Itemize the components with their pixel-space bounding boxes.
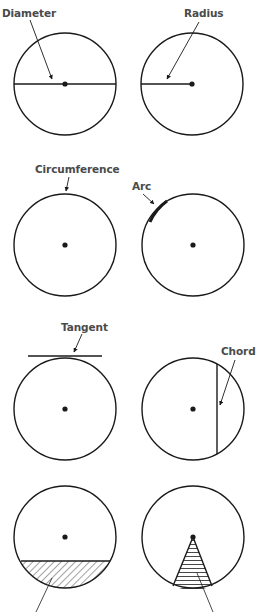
center-dot — [189, 81, 194, 86]
diameter-label: Diameter — [2, 7, 56, 19]
diameter-pointer — [30, 20, 52, 79]
tangent-label: Tangent — [61, 321, 108, 333]
arc-highlight — [150, 201, 167, 222]
circle-parts-diagram — [0, 0, 261, 614]
center-dot — [62, 534, 67, 539]
arc-pointer — [143, 194, 154, 204]
sector-panel — [142, 486, 244, 612]
circumference-panel — [14, 177, 116, 296]
tangent-pointer — [74, 334, 82, 352]
diameter-panel — [14, 20, 116, 135]
center-dot — [62, 406, 67, 411]
circumference-pointer — [66, 177, 69, 191]
segment-panel — [10, 486, 120, 612]
center-dot — [62, 81, 67, 86]
center-dot — [190, 534, 195, 539]
chord-label: Chord — [221, 345, 256, 357]
tangent-panel — [14, 334, 116, 460]
radius-label: Radius — [184, 7, 223, 19]
segment-hatch — [10, 561, 120, 601]
arc-label: Arc — [132, 180, 151, 192]
center-dot — [62, 242, 67, 247]
sector-hatch — [173, 537, 212, 590]
arc-panel — [142, 194, 244, 296]
chord-panel — [142, 358, 244, 460]
radius-pointer — [167, 22, 199, 79]
circumference-label: Circumference — [35, 163, 120, 175]
center-dot — [190, 406, 195, 411]
radius-panel — [141, 22, 243, 135]
center-dot — [190, 242, 195, 247]
